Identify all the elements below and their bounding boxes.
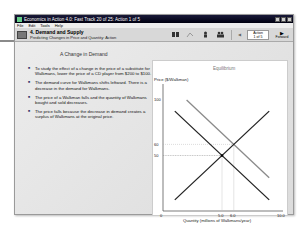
lesson-header: 4. Demand and Supply Predicting Changes … bbox=[15, 28, 293, 42]
new-equilibrium-point bbox=[221, 154, 224, 157]
menu-tools[interactable]: Tools bbox=[40, 23, 49, 28]
y-tick-100: 100 bbox=[154, 97, 161, 102]
person-icon[interactable] bbox=[201, 31, 210, 38]
lesson-subtitle: Predicting Changes in Price and Quantity… bbox=[30, 35, 171, 40]
chart-title: Equilibrium bbox=[213, 66, 236, 71]
section-title: A Change in Demand bbox=[60, 51, 108, 57]
group-icon[interactable] bbox=[216, 31, 225, 38]
chapter-icon bbox=[17, 31, 27, 39]
list-item: The price falls because the decrease in … bbox=[27, 109, 157, 119]
app-icon bbox=[17, 17, 22, 22]
lesson-content: A Change in Demand To study the effect o… bbox=[15, 42, 293, 214]
page-edge-rule bbox=[0, 40, 14, 42]
list-item: The price of a Walkman falls and the qua… bbox=[27, 95, 157, 105]
back-button[interactable]: ◀ bbox=[238, 32, 241, 37]
x-axis-label: Quantity (millions of Walkmans/year) bbox=[183, 218, 251, 223]
x-tick-10: 10.0 bbox=[277, 213, 286, 217]
x-tick-0: 0 bbox=[160, 213, 163, 217]
y-tick-50: 50 bbox=[154, 153, 159, 158]
chart-icon[interactable] bbox=[186, 31, 195, 38]
y-tick-60: 60 bbox=[154, 142, 159, 147]
original-demand-curve bbox=[187, 100, 270, 178]
toolbar: ◀ Action 1 of 5 ▶ Forward bbox=[171, 30, 289, 40]
close-button[interactable] bbox=[287, 17, 292, 22]
forward-button[interactable]: ▶ Forward bbox=[275, 31, 289, 39]
list-item: To study the effect of a change in the p… bbox=[27, 66, 157, 76]
list-item: The demand curve for Walkmans shifts lef… bbox=[27, 80, 157, 90]
x-tick-6: 6.0 bbox=[230, 213, 236, 217]
app-window: Economics in Action 4.0: Fast Track 20 o… bbox=[14, 14, 294, 215]
menu-edit[interactable]: Edit bbox=[28, 23, 35, 28]
people-icon[interactable] bbox=[171, 31, 180, 38]
window-title: Economics in Action 4.0: Fast Track 20 o… bbox=[24, 17, 275, 22]
equilibrium-graph: Equilibrium Price ($/Walkman) 100 60 50 bbox=[152, 60, 288, 216]
title-bar: Economics in Action 4.0: Fast Track 20 o… bbox=[15, 15, 293, 23]
action-counter: Action 1 of 5 bbox=[247, 30, 269, 40]
minimize-button[interactable] bbox=[275, 17, 280, 22]
bullet-list: To study the effect of a change in the p… bbox=[27, 66, 157, 124]
y-axis-label: Price ($/Walkman) bbox=[154, 77, 189, 82]
toolbar-divider bbox=[231, 30, 232, 40]
x-tick-5: 5.0 bbox=[218, 213, 224, 217]
menu-file[interactable]: File bbox=[17, 23, 23, 28]
maximize-button[interactable] bbox=[281, 17, 286, 22]
menu-help[interactable]: Help bbox=[55, 23, 63, 28]
